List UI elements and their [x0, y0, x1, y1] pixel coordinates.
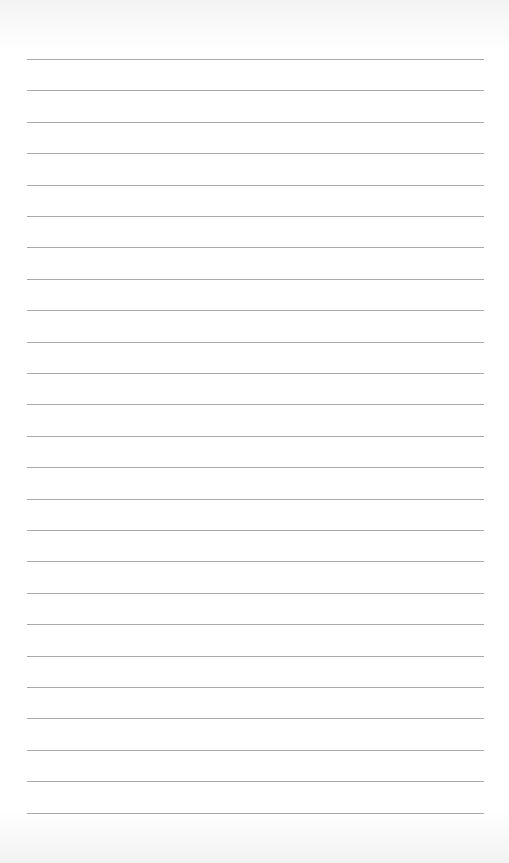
ruled-line	[27, 122, 484, 123]
ruled-line	[27, 247, 484, 248]
ruled-line	[27, 593, 484, 594]
ruled-line	[27, 342, 484, 343]
ruled-line	[27, 656, 484, 657]
ruled-line	[27, 436, 484, 437]
ruled-line	[27, 718, 484, 719]
ruled-line	[27, 216, 484, 217]
ruled-line	[27, 750, 484, 751]
ruled-line	[27, 499, 484, 500]
ruled-line	[27, 781, 484, 782]
ruled-line	[27, 90, 484, 91]
ruled-line	[27, 279, 484, 280]
ruled-line	[27, 467, 484, 468]
lined-paper-page	[0, 0, 509, 863]
ruled-line	[27, 530, 484, 531]
ruled-line	[27, 404, 484, 405]
ruled-line	[27, 373, 484, 374]
ruled-line	[27, 813, 484, 814]
ruled-line	[27, 59, 484, 60]
ruled-line	[27, 687, 484, 688]
ruled-line	[27, 624, 484, 625]
ruled-line	[27, 185, 484, 186]
ruled-line	[27, 561, 484, 562]
ruled-line	[27, 153, 484, 154]
ruled-line	[27, 310, 484, 311]
